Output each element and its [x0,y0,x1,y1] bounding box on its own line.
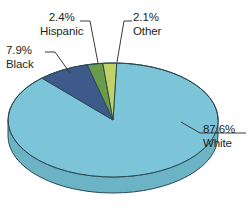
slice-label-white-name: White [203,137,235,151]
leader-line-other [117,21,132,62]
pie-chart-graphic [0,0,252,212]
slice-label-white-value: 87.6% [203,123,235,137]
slice-label-black: 7.9% Black [6,44,34,71]
slice-label-other-value: 2.1% [133,11,161,25]
slice-label-other: 2.1% Other [133,11,161,38]
slice-label-hispanic-value: 2.4% [40,11,83,25]
slice-label-hispanic-name: Hispanic [40,25,83,39]
slice-label-white: 87.6% White [203,123,235,150]
pie-chart: 2.4% Hispanic 2.1% Other 7.9% Black 87.6… [0,0,252,212]
slice-label-black-name: Black [6,58,34,72]
slice-label-hispanic: 2.4% Hispanic [40,11,83,38]
slice-label-other-name: Other [133,25,161,39]
slice-label-black-value: 7.9% [6,44,34,58]
pie-top-face [8,63,218,177]
